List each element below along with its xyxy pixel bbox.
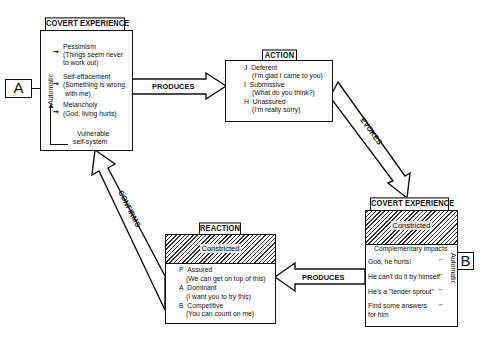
action-box: J Deferent (I'm glad I came to you) I Su… (225, 60, 333, 122)
automatic-bracket-line (50, 105, 51, 144)
impact-item: God, he hurts! (368, 258, 411, 267)
complementary-impacts-title: Complementary impacts (374, 245, 447, 254)
action-quote: (I'm really sorry) (252, 106, 301, 115)
reaction-quote: (You can count on me) (186, 310, 254, 319)
produces-arrow-top: PRODUCES (132, 73, 226, 99)
evokes-arrow: EVOKES (330, 82, 410, 198)
reaction-label: Dominant (187, 284, 216, 291)
right-arrow-icon: ➞ (53, 108, 59, 116)
left-arrow-icon: ← (438, 255, 445, 263)
left-arrow-icon: ← (438, 270, 445, 278)
action-quote: (I'm glad I came to you) (252, 72, 323, 81)
pessimism-desc-2: to work out) (63, 59, 99, 68)
produces-arrow-top-label: PRODUCES (152, 82, 195, 91)
melancholy-label: Melancholy (63, 101, 97, 110)
impact-item: He's a "tender sprout" (368, 288, 434, 297)
melancholy-desc: (God, living hurts) (63, 110, 117, 119)
confirms-arrow: CONFIRMS (92, 150, 165, 310)
reaction-box: Constricted P Assured (We can get on top… (165, 234, 276, 324)
automatic-bracket-base (50, 144, 68, 145)
reaction-quote: (We can get on top of this) (186, 275, 266, 284)
action-code: H (244, 98, 249, 105)
produces-arrow-bottom: PRODUCES (275, 263, 365, 291)
impact-item: Find some answers (368, 302, 427, 311)
reaction-quote: (I want you to try this) (186, 293, 251, 302)
action-label: Unassured (253, 98, 286, 105)
action-label: Submissive (250, 81, 285, 88)
action-label: Deferent (251, 64, 277, 71)
right-arrow-icon: ➞ (53, 80, 59, 88)
constricted-label-b: Constricted (366, 221, 457, 230)
left-arrow-icon: ← (438, 300, 445, 308)
impact-item: for him (368, 311, 389, 320)
marker-a-connector (32, 88, 40, 89)
covert-experience-b-box: Constricted Complementary impacts God, h… (365, 210, 458, 327)
self-effacement-desc-2: with me) (65, 90, 91, 99)
impact-item: He can't do it by himself (368, 273, 440, 282)
produces-arrow-bottom-label: PRODUCES (302, 273, 345, 282)
marker-b: B (457, 252, 474, 270)
reaction-code: P (179, 266, 184, 273)
automatic-label-b: Automatic (450, 253, 457, 284)
constricted-label-reaction: Constricted (166, 244, 275, 253)
self-effacement-desc-1: (Something is wrong (63, 81, 125, 90)
action-quote: (What do you think?) (252, 89, 315, 98)
self-system-label: self-system (73, 138, 107, 147)
right-arrow-icon: ➞ (53, 48, 59, 56)
reaction-label: Competitive (187, 302, 223, 309)
reaction-code: A (179, 284, 184, 291)
left-arrow-icon: ← (438, 285, 445, 293)
marker-a: A (5, 79, 32, 98)
action-code: J (244, 64, 247, 71)
reaction-code: B (179, 302, 184, 309)
action-code: I (244, 81, 246, 88)
covert-experience-a-box: Automatic ▲ ➞ Pessimism (Things seem nev… (40, 30, 133, 151)
reaction-label: Assured (187, 266, 212, 273)
